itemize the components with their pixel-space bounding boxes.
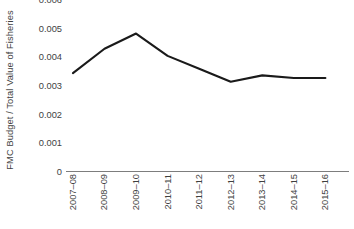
y-axis-tick-labels: 00.0010.0020.0030.0040.0050.006	[18, 0, 66, 180]
x-tick-label-text: 2008–09	[99, 174, 109, 210]
y-tick-label: 0	[57, 167, 62, 177]
x-tick-label-text: 2014–15	[289, 174, 299, 210]
x-axis-tick-labels: 2007–082008–092009–102010–112011–122012–…	[66, 174, 350, 229]
y-tick-label: 0.004	[39, 52, 62, 62]
x-tick-label: 2010–11	[162, 174, 174, 228]
x-axis-line	[66, 171, 349, 172]
data-series-line	[73, 34, 325, 82]
x-tick-label: 2015–16	[319, 174, 331, 228]
series-line-chart-svg	[66, 0, 350, 172]
x-tick-label: 2008–09	[98, 174, 110, 228]
x-tick-label: 2012–13	[225, 174, 237, 228]
x-tick-label: 2011–12	[193, 174, 205, 228]
y-tick-label: 0.006	[39, 0, 62, 5]
x-tick-label-text: 2012–13	[226, 174, 236, 210]
y-tick-label: 0.002	[39, 110, 62, 120]
x-tick-label: 2009–10	[130, 174, 142, 228]
x-tick-label-text: 2015–16	[320, 174, 330, 210]
x-tick-label: 2014–15	[288, 174, 300, 228]
x-tick-label-text: 2011–12	[194, 174, 204, 210]
y-axis-title-text: FMC Budget / Total Value of Fisheries	[5, 10, 15, 169]
x-tick-label: 2007–08	[67, 174, 79, 228]
y-tick-label: 0.001	[39, 138, 62, 148]
line-chart: FMC Budget / Total Value of Fisheries 00…	[0, 0, 354, 229]
x-tick-label: 2013–14	[256, 174, 268, 228]
y-axis-title: FMC Budget / Total Value of Fisheries	[0, 0, 20, 180]
x-tick-label-text: 2009–10	[131, 174, 141, 210]
plot-area	[66, 0, 350, 172]
x-tick-label-text: 2010–11	[163, 174, 173, 210]
y-tick-label: 0.003	[39, 81, 62, 91]
x-tick-label-text: 2007–08	[68, 174, 78, 210]
x-tick-label-text: 2013–14	[257, 174, 267, 210]
y-tick-label: 0.005	[39, 24, 62, 34]
